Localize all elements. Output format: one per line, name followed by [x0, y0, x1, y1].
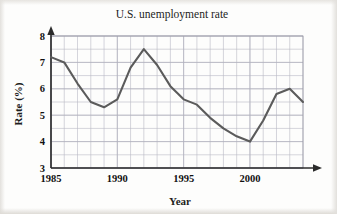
y-axis-title: Rate (%): [12, 82, 25, 125]
x-tick-label: 1995: [173, 173, 194, 184]
x-tick-label: 1985: [41, 173, 62, 184]
y-axis-tick-labels: 345678: [40, 31, 46, 174]
y-tick-label: 4: [40, 136, 46, 147]
x-axis-title: Year: [169, 195, 191, 207]
y-tick-label: 8: [40, 31, 45, 42]
y-tick-label: 3: [40, 163, 45, 174]
y-tick-label: 6: [40, 83, 45, 94]
y-tick-label: 5: [40, 110, 45, 121]
unemployment-rate-series-line: [51, 49, 303, 141]
chart-figure: U.S. unemployment rate 345678 1985199019…: [0, 0, 337, 214]
y-minor-gridlines: [51, 36, 303, 168]
x-tick-label: 1990: [107, 173, 128, 184]
unemployment-rate-line-chart: U.S. unemployment rate 345678 1985199019…: [0, 0, 337, 214]
y-axis-arrow: [47, 26, 54, 35]
x-axis-arrow: [313, 164, 322, 171]
x-axis-tick-labels: 1985199019952000: [41, 173, 261, 184]
x-tick-label: 2000: [239, 173, 260, 184]
y-tick-label: 7: [40, 57, 45, 68]
chart-title: U.S. unemployment rate: [116, 8, 228, 21]
